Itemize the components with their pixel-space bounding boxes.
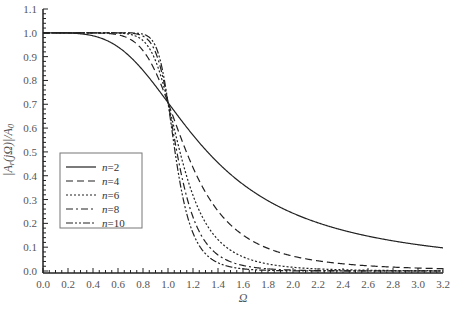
y-tick-label: 0.4: [23, 170, 37, 182]
x-tick-label: 0.4: [86, 278, 100, 290]
x-tick-label: 2.2: [311, 278, 325, 290]
y-tick-label: 0.1: [23, 241, 37, 253]
legend-label: n=4: [102, 175, 120, 187]
x-tick-label: 0.2: [61, 278, 75, 290]
x-tick-label: 2.0: [286, 278, 300, 290]
curve-n=8: [43, 33, 443, 271]
x-axis-title: Ω: [239, 291, 248, 305]
y-tick-label: 0.5: [23, 146, 37, 158]
y-axis-title: |Ar(jΩ)|/A0: [1, 124, 16, 176]
x-tick-label: 1.8: [261, 278, 275, 290]
x-tick-label: 1.0: [161, 278, 175, 290]
x-tick-label: 0.0: [36, 278, 50, 290]
x-tick-label: 2.4: [336, 278, 350, 290]
y-tick-label: 0.6: [23, 122, 37, 134]
x-tick-label: 2.6: [361, 278, 375, 290]
legend-box: [60, 153, 142, 228]
legend: n=2n=4n=6n=8n=10: [60, 153, 142, 229]
legend-label: n=10: [102, 217, 125, 229]
y-tick-label: 1.1: [23, 3, 37, 15]
y-tick-label: 0.9: [23, 51, 37, 63]
curve-n=6: [43, 33, 443, 271]
x-tick-label: 2.8: [386, 278, 400, 290]
axes: 0.00.10.20.30.40.50.60.70.80.91.01.10.00…: [23, 3, 450, 290]
y-tick-label: 1.0: [23, 27, 37, 39]
x-tick-label: 0.8: [136, 278, 150, 290]
x-tick-label: 1.2: [186, 278, 200, 290]
legend-label: n=8: [102, 203, 120, 215]
x-tick-label: 0.6: [111, 278, 125, 290]
x-tick-label: 3.2: [436, 278, 450, 290]
legend-label: n=2: [102, 161, 119, 173]
curve-n=10: [43, 33, 443, 271]
y-tick-label: 0.2: [23, 217, 37, 229]
curve-n=4: [43, 33, 443, 269]
y-tick-label: 0.3: [23, 194, 37, 206]
x-tick-label: 3.0: [411, 278, 425, 290]
legend-label: n=6: [102, 189, 120, 201]
curves: [43, 33, 443, 271]
y-tick-label: 0.0: [23, 265, 37, 277]
x-tick-label: 1.4: [211, 278, 225, 290]
y-tick-label: 0.8: [23, 74, 37, 86]
butterworth-chart: 0.00.10.20.30.40.50.60.70.80.91.01.10.00…: [0, 0, 453, 311]
x-tick-label: 1.6: [236, 278, 250, 290]
y-tick-label: 0.7: [23, 98, 37, 110]
